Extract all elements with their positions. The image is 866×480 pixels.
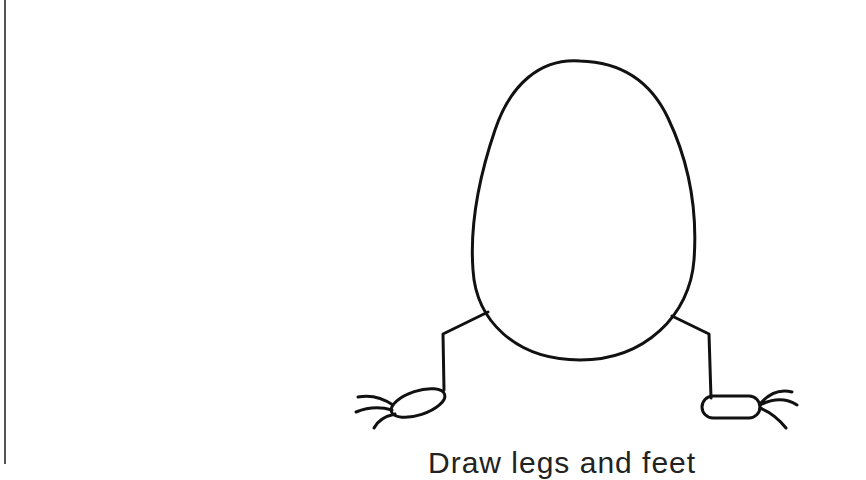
left-foot [388, 383, 449, 423]
right-leg [672, 316, 711, 398]
diagram-caption: Draw legs and feet [428, 446, 696, 480]
left-toes [356, 396, 395, 428]
egg-body [472, 61, 694, 360]
right-toes [760, 391, 797, 428]
left-leg [443, 312, 488, 390]
